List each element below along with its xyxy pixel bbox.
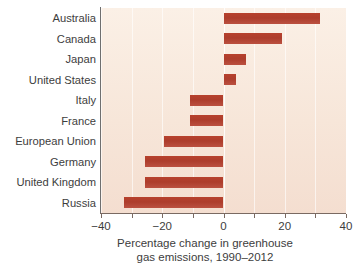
y-axis-tick-label: France bbox=[0, 115, 96, 127]
bar bbox=[224, 74, 236, 85]
y-axis-tick-labels: AustraliaCanadaJapanUnited StatesItalyFr… bbox=[0, 8, 96, 213]
x-axis-tick-label: 40 bbox=[326, 220, 359, 232]
y-axis-tick-label: European Union bbox=[0, 135, 96, 147]
x-axis-tick-mark bbox=[224, 214, 225, 218]
bar bbox=[145, 156, 223, 167]
gridline bbox=[315, 8, 316, 213]
figure-container: AustraliaCanadaJapanUnited StatesItalyFr… bbox=[0, 0, 359, 275]
bar bbox=[190, 95, 224, 106]
x-axis-tick-label: 20 bbox=[265, 220, 305, 232]
x-axis-tick-mark bbox=[162, 214, 163, 218]
y-axis-tick-label: United Kingdom bbox=[0, 176, 96, 188]
x-axis-tick-label: −40 bbox=[81, 220, 121, 232]
y-axis-tick-label: Canada bbox=[0, 33, 96, 45]
gridline bbox=[132, 8, 133, 213]
bar bbox=[164, 136, 224, 147]
y-axis-tick-label: Italy bbox=[0, 94, 96, 106]
bar bbox=[224, 54, 247, 65]
y-axis-tick-label: Germany bbox=[0, 156, 96, 168]
y-axis-tick-label: Australia bbox=[0, 12, 96, 24]
x-axis-title: Percentage change in greenhouse gas emis… bbox=[60, 237, 350, 264]
x-axis-tick-mark bbox=[315, 214, 316, 218]
x-axis-title-line-1: Percentage change in greenhouse bbox=[60, 237, 350, 251]
x-axis-tick-mark bbox=[254, 214, 255, 218]
bar bbox=[190, 115, 224, 126]
y-axis-line bbox=[100, 7, 101, 214]
bar bbox=[145, 177, 223, 188]
x-axis-tick-mark bbox=[132, 214, 133, 218]
bar bbox=[224, 13, 320, 24]
bar bbox=[224, 33, 282, 44]
x-axis-tick-mark bbox=[101, 214, 102, 218]
gridline bbox=[285, 8, 286, 213]
bar bbox=[124, 197, 224, 208]
x-axis-tick-label: 0 bbox=[204, 220, 244, 232]
plot-area bbox=[101, 8, 346, 213]
x-axis-title-line-2: gas emissions, 1990–2012 bbox=[60, 251, 350, 265]
x-axis-tick-mark bbox=[285, 214, 286, 218]
y-axis-tick-label: Russia bbox=[0, 197, 96, 209]
y-axis-tick-label: Japan bbox=[0, 53, 96, 65]
x-axis-tick-label: −20 bbox=[142, 220, 182, 232]
x-axis-tick-mark bbox=[193, 214, 194, 218]
y-axis-tick-label: United States bbox=[0, 74, 96, 86]
x-axis-tick-mark bbox=[346, 214, 347, 218]
